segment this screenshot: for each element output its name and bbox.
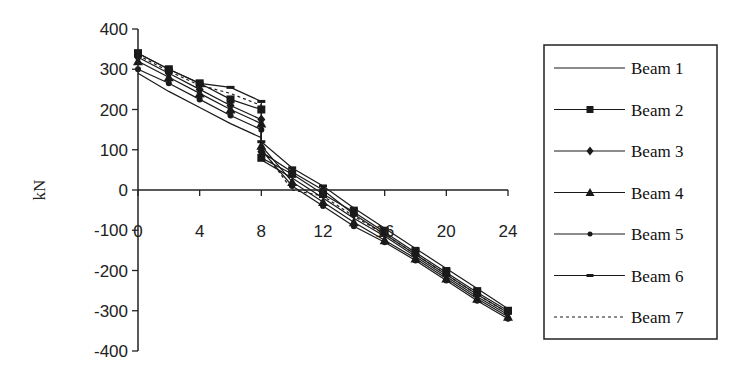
series-beam-6 — [134, 52, 512, 311]
x-tick-label: 12 — [314, 222, 333, 241]
dash-marker-icon — [196, 82, 204, 85]
x-tick-label: 0 — [133, 222, 142, 241]
square-marker-icon — [587, 106, 594, 113]
series-line — [138, 55, 508, 313]
legend: Beam 1Beam 2Beam 3Beam 4Beam 5Beam 6Beam… — [544, 45, 717, 339]
y-tick-label: -300 — [94, 302, 128, 321]
x-tick-label: 4 — [195, 222, 204, 241]
dash-marker-icon — [412, 247, 420, 250]
y-tick-label: 200 — [100, 101, 128, 120]
x-tick-label: 20 — [437, 222, 456, 241]
circle-marker-icon — [166, 80, 172, 86]
dash-marker-icon — [473, 287, 481, 290]
y-tick-label: 400 — [100, 20, 128, 39]
y-tick-label: 100 — [100, 141, 128, 160]
y-tick-label: -100 — [94, 221, 128, 240]
legend-label: Beam 6 — [631, 267, 683, 286]
dash-marker-icon — [227, 86, 235, 89]
circle-marker-icon — [351, 223, 357, 229]
series-beam-7 — [138, 55, 508, 313]
y-tick-label: -400 — [94, 342, 128, 361]
circle-marker-icon — [228, 113, 234, 119]
legend-label: Beam 3 — [631, 142, 683, 161]
series-line — [138, 53, 508, 309]
circle-marker-icon — [320, 203, 326, 209]
dash-marker-icon — [257, 100, 265, 103]
x-tick-label: 24 — [499, 222, 518, 241]
legend-label: Beam 7 — [631, 308, 684, 327]
x-tick-label: 8 — [257, 222, 266, 241]
legend-label: Beam 1 — [631, 59, 683, 78]
dash-marker-icon — [442, 267, 450, 270]
dash-marker-icon — [587, 274, 594, 277]
y-tick-label: 0 — [119, 181, 128, 200]
legend-label: Beam 2 — [631, 101, 683, 120]
dash-marker-icon — [504, 307, 512, 310]
shear-force-chart: 4003002001000-100-200-300-40004812162024… — [0, 0, 743, 373]
circle-marker-icon — [505, 316, 511, 322]
circle-marker-icon — [289, 183, 295, 189]
y-tick-label: 300 — [100, 60, 128, 79]
circle-marker-icon — [443, 278, 449, 284]
y-axis-title: kN — [30, 180, 49, 201]
circle-marker-icon — [474, 298, 480, 304]
dash-marker-icon — [350, 207, 358, 210]
legend-label: Beam 4 — [631, 184, 684, 203]
plot-area — [133, 49, 513, 322]
circle-marker-icon — [413, 257, 419, 263]
circle-marker-icon — [588, 232, 593, 237]
y-tick-label: -200 — [94, 262, 128, 281]
circle-marker-icon — [197, 96, 203, 102]
dash-marker-icon — [319, 184, 327, 187]
dash-marker-icon — [288, 166, 296, 169]
x-tick-label: 16 — [375, 222, 394, 241]
legend-label: Beam 5 — [631, 225, 683, 244]
